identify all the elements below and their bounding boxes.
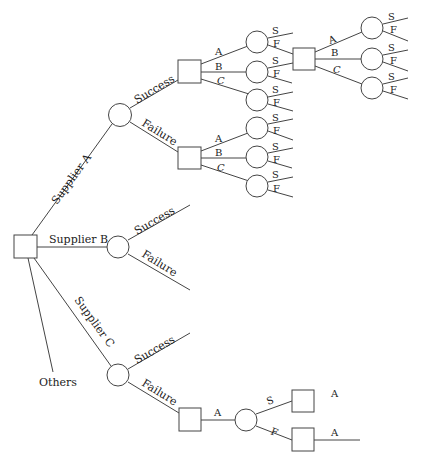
opt-a: A bbox=[213, 407, 222, 418]
label-supplier-c: Supplier C bbox=[72, 294, 117, 350]
a-success-chance-nodes bbox=[246, 31, 293, 111]
branch-supplier-c[interactable] bbox=[34, 258, 111, 366]
opt-b: B bbox=[215, 61, 222, 72]
opt-a: A bbox=[326, 33, 338, 46]
label-f: F bbox=[269, 426, 279, 439]
opt-b: B bbox=[331, 47, 338, 58]
label-a-failure: Failure bbox=[139, 117, 179, 149]
decision-node-a-failure[interactable] bbox=[178, 147, 201, 169]
label-s: S bbox=[272, 25, 279, 36]
decision-node-after-f[interactable] bbox=[292, 428, 314, 451]
opt-a: A bbox=[330, 427, 339, 438]
second-stage-chance-nodes bbox=[361, 17, 408, 99]
chance-node[interactable] bbox=[246, 146, 268, 168]
opt-c: C bbox=[333, 64, 341, 75]
label-f: F bbox=[273, 97, 280, 108]
chance-node[interactable] bbox=[246, 31, 268, 53]
label-f: F bbox=[273, 154, 280, 165]
decision-node-after-s[interactable] bbox=[292, 390, 314, 412]
decision-node-a-success[interactable] bbox=[178, 60, 201, 83]
label-s: S bbox=[272, 141, 279, 152]
decision-tree-diagram: Supplier A Supplier B Supplier C Others … bbox=[0, 0, 424, 467]
label-s: S bbox=[265, 394, 275, 407]
opt-a: A bbox=[214, 46, 223, 57]
chance-node-c-option-a[interactable] bbox=[235, 409, 257, 431]
chance-node[interactable] bbox=[361, 17, 383, 39]
label-supplier-b: Supplier B bbox=[49, 233, 108, 246]
label-b-failure: Failure bbox=[139, 248, 179, 280]
opt-a: A bbox=[214, 133, 223, 144]
label-f: F bbox=[273, 68, 280, 79]
label-a-success: Success bbox=[132, 72, 177, 106]
label-f: F bbox=[273, 38, 280, 49]
chance-node-supplier-b[interactable] bbox=[107, 236, 129, 258]
branch-others[interactable] bbox=[28, 258, 53, 372]
a-success-options bbox=[201, 46, 249, 94]
chance-node[interactable] bbox=[361, 77, 383, 99]
label-c-success: Success bbox=[132, 333, 178, 367]
label-s: S bbox=[272, 55, 279, 66]
opt-b: B bbox=[215, 147, 222, 158]
chance-node[interactable] bbox=[246, 175, 268, 197]
root-decision-node[interactable] bbox=[14, 235, 37, 258]
chance-node-supplier-c[interactable] bbox=[107, 364, 129, 386]
chance-node[interactable] bbox=[246, 117, 268, 139]
label-others: Others bbox=[39, 376, 77, 389]
decision-node-second-stage[interactable] bbox=[293, 48, 315, 70]
chance-node[interactable] bbox=[246, 89, 268, 111]
label-s: S bbox=[388, 71, 395, 82]
label-f: F bbox=[390, 55, 397, 66]
chance-node[interactable] bbox=[246, 61, 268, 83]
label-supplier-a: Supplier A bbox=[49, 151, 95, 207]
decision-node-c-failure[interactable] bbox=[179, 408, 201, 431]
label-b-success: Success bbox=[132, 204, 178, 238]
label-s: S bbox=[272, 112, 279, 123]
opt-a: A bbox=[330, 388, 339, 399]
a-failure-options bbox=[201, 133, 249, 181]
opt-c: C bbox=[217, 75, 225, 86]
chance-node-supplier-a[interactable] bbox=[109, 104, 132, 127]
label-s: S bbox=[272, 84, 279, 95]
label-f: F bbox=[390, 24, 397, 35]
label-f: F bbox=[390, 84, 397, 95]
label-s: S bbox=[388, 42, 395, 53]
label-f: F bbox=[273, 125, 280, 136]
label-s: S bbox=[388, 11, 395, 22]
a-failure-chance-nodes bbox=[246, 117, 293, 197]
second-stage-options bbox=[315, 32, 362, 84]
label-f: F bbox=[273, 183, 280, 194]
label-s: S bbox=[272, 169, 279, 180]
opt-c: C bbox=[217, 162, 225, 173]
chance-node[interactable] bbox=[361, 48, 383, 70]
